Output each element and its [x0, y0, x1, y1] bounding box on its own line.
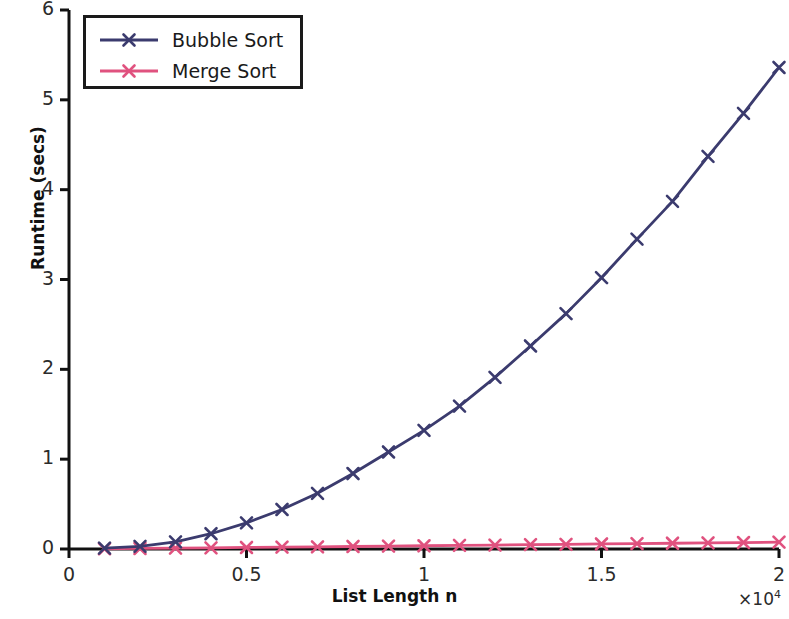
series-merge-sort [99, 537, 785, 555]
x-axis-offset-multiplier: ×104 [738, 588, 781, 609]
legend-label-merge-sort: Merge Sort [172, 60, 276, 82]
y-tick-label: 6 [14, 0, 54, 19]
data-series-layer [99, 62, 785, 554]
x-axis-label: List Length n [0, 586, 789, 606]
x-tick-label: 0.5 [225, 563, 269, 585]
x-offset-exponent: 4 [774, 588, 781, 601]
x-tick-label: 1 [402, 563, 446, 585]
legend-swatch-merge-sort [98, 61, 160, 81]
chart-figure: 0123456 00.511.52 Runtime (secs) List Le… [0, 0, 789, 619]
x-offset-base: ×10 [738, 589, 774, 609]
axis-tick-marks [60, 10, 779, 558]
y-tick-label: 2 [14, 356, 54, 378]
axis-spines [69, 10, 779, 549]
y-tick-label: 0 [14, 536, 54, 558]
legend-entry-bubble-sort: Bubble Sort [86, 24, 300, 55]
legend-swatch-bubble-sort [98, 30, 160, 50]
series-bubble-sort [99, 62, 785, 554]
legend-label-bubble-sort: Bubble Sort [172, 29, 283, 51]
x-tick-label: 0 [47, 563, 91, 585]
y-tick-label: 1 [14, 446, 54, 468]
y-axis-label: Runtime (secs) [28, 98, 48, 298]
plot-area [0, 0, 789, 619]
legend-entry-merge-sort: Merge Sort [86, 55, 300, 86]
x-tick-label: 1.5 [580, 563, 624, 585]
chart-legend: Bubble Sort Merge Sort [83, 15, 303, 89]
x-tick-label: 2 [757, 563, 789, 585]
